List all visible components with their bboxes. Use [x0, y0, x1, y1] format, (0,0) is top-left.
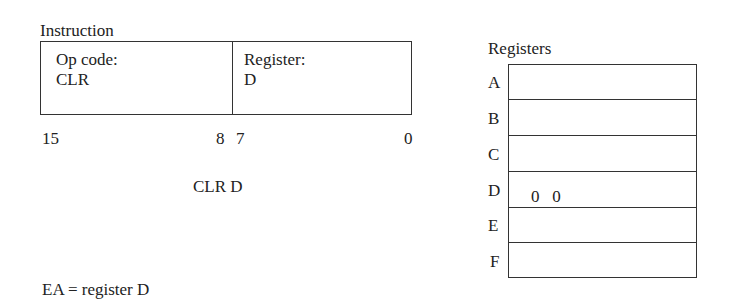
- register-label-d: D: [488, 182, 500, 200]
- register-label-e: E: [488, 217, 498, 235]
- bit-label-7: 7: [236, 130, 245, 148]
- instruction-heading: Instruction: [40, 22, 114, 40]
- register-label-f: F: [490, 253, 499, 271]
- effective-address: EA = register D: [42, 281, 149, 299]
- bit-label-15: 15: [42, 130, 59, 148]
- register-label-a: A: [488, 74, 500, 92]
- row-divider: [509, 207, 696, 208]
- row-divider: [509, 99, 696, 100]
- instruction-format-box: Op code: CLR Register: D: [40, 41, 412, 115]
- row-divider: [509, 242, 696, 243]
- bit-label-8: 8: [216, 130, 225, 148]
- mnemonic: CLR D: [193, 178, 243, 196]
- row-divider: [509, 135, 696, 136]
- register-label-c: C: [488, 146, 499, 164]
- opcode-value: CLR: [56, 70, 89, 90]
- register-label-b: B: [488, 110, 499, 128]
- row-divider: [509, 171, 696, 172]
- registers-heading: Registers: [488, 40, 551, 58]
- opcode-label: Op code:: [56, 50, 118, 70]
- field-divider: [232, 42, 233, 114]
- register-file: 0 0: [508, 64, 697, 278]
- register-d-content: 0 0: [531, 188, 561, 206]
- register-label: Register:: [244, 50, 305, 70]
- register-value: D: [244, 70, 256, 90]
- bit-label-0: 0: [404, 130, 413, 148]
